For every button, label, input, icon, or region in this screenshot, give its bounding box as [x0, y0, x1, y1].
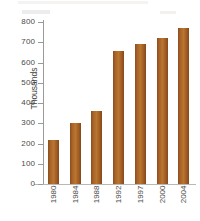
bar-slot	[66, 22, 88, 184]
x-axis-tick-label: 1997	[135, 186, 144, 220]
bar	[157, 38, 168, 184]
y-axis-tick	[38, 83, 43, 84]
bar-slot	[153, 22, 175, 184]
bar	[48, 140, 59, 184]
y-axis-tick	[38, 103, 43, 104]
x-axis-tick-label-slot: 1992	[109, 186, 131, 220]
scan-artifact-top	[18, 1, 148, 4]
bar	[91, 111, 102, 184]
bar	[113, 51, 124, 184]
x-axis-tick-label-slot: 2000	[153, 186, 175, 220]
y-axis-tick	[38, 22, 43, 23]
x-axis-tick-label: 1992	[114, 186, 123, 220]
x-axis-tick-label: 1984	[70, 186, 79, 220]
x-axis-tick-label: 1980	[49, 186, 58, 220]
y-axis-tick-label: 800	[9, 18, 35, 26]
y-axis-tick	[38, 123, 43, 124]
y-axis-tick	[38, 63, 43, 64]
bar-chart-figure: 0100200300400500600700800 Thousands 1980…	[0, 0, 200, 221]
y-axis-tick-label: 200	[9, 140, 35, 148]
bar-slot	[131, 22, 153, 184]
x-axis-tick-label-slot: 1988	[87, 186, 109, 220]
x-axis-tick-label: 2004	[179, 186, 188, 220]
bar	[178, 28, 189, 184]
y-axis-title: Thousands	[30, 49, 39, 129]
scan-artifact-left	[22, 10, 50, 14]
y-axis-tick-label: 100	[9, 160, 35, 168]
x-axis-tick-label-slot: 1997	[131, 186, 153, 220]
bar-series	[44, 22, 196, 184]
bar	[135, 44, 146, 184]
x-axis-tick-label-slot: 1984	[66, 186, 88, 220]
scan-artifact-right	[160, 11, 176, 14]
bar-slot	[109, 22, 131, 184]
y-axis-tick	[38, 164, 43, 165]
x-axis-tick-label-slot: 1980	[44, 186, 66, 220]
y-axis-tick	[38, 144, 43, 145]
y-axis-tick	[38, 42, 43, 43]
x-axis-tick-label-slot: 2004	[174, 186, 196, 220]
y-axis-tick-label: 0	[9, 180, 35, 188]
bar-slot	[87, 22, 109, 184]
bar-slot	[174, 22, 196, 184]
y-axis-tick-label: 700	[9, 38, 35, 46]
bar	[70, 123, 81, 184]
y-axis-tick	[38, 184, 43, 185]
x-axis-tick-label: 1988	[92, 186, 101, 220]
x-axis: 1980198419881992199720002004	[44, 186, 196, 221]
bar-slot	[44, 22, 66, 184]
x-axis-tick-label: 2000	[157, 186, 166, 220]
